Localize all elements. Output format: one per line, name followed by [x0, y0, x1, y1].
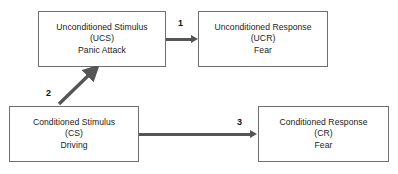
- ucr-abbreviation: (UCR): [251, 33, 276, 44]
- unconditioned-response-box: Unconditioned Response (UCR) Fear: [198, 11, 328, 67]
- cs-title: Conditioned Stimulus: [33, 117, 115, 128]
- arrow-cs-to-ucs-icon: [57, 66, 99, 106]
- ucr-title: Unconditioned Response: [214, 22, 311, 33]
- diagram-canvas: Unconditioned Stimulus (UCS) Panic Attac…: [0, 0, 398, 174]
- cs-example: Driving: [60, 140, 87, 151]
- cr-abbreviation: (CR): [314, 128, 332, 139]
- arrowhead-icon: [191, 35, 198, 43]
- cr-example: Fear: [315, 140, 333, 151]
- arrow-label-3: 3: [237, 117, 242, 127]
- ucs-abbreviation: (UCS): [90, 33, 114, 44]
- cs-abbreviation: (CS): [65, 128, 83, 139]
- arrow-ucs-to-ucr-icon: [166, 38, 192, 41]
- conditioned-response-box: Conditioned Response (CR) Fear: [258, 106, 389, 162]
- unconditioned-stimulus-box: Unconditioned Stimulus (UCS) Panic Attac…: [38, 11, 166, 67]
- ucs-example: Panic Attack: [78, 45, 126, 56]
- ucr-example: Fear: [254, 45, 272, 56]
- cr-title: Conditioned Response: [280, 117, 368, 128]
- conditioned-stimulus-box: Conditioned Stimulus (CS) Driving: [9, 106, 139, 162]
- arrow-cs-to-cr-icon: [139, 133, 251, 136]
- arrowhead-icon: [250, 130, 257, 138]
- arrow-label-2: 2: [46, 88, 51, 98]
- ucs-title: Unconditioned Stimulus: [56, 22, 147, 33]
- arrow-label-1: 1: [178, 18, 183, 28]
